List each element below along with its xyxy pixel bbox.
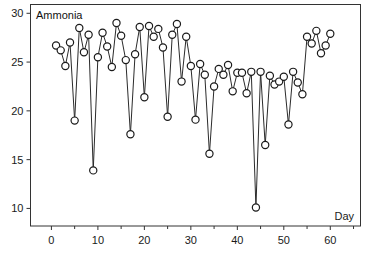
data-point-marker (206, 150, 213, 157)
data-point-marker (90, 167, 97, 174)
data-point-marker (169, 31, 176, 38)
x-tick-label: 60 (324, 234, 336, 246)
y-tick-label: 30 (11, 7, 23, 19)
data-point-marker (192, 116, 199, 123)
data-point-marker (290, 68, 297, 75)
data-point-marker (197, 60, 204, 67)
data-point-marker (243, 90, 250, 97)
data-point-marker (201, 71, 208, 78)
data-point-marker (220, 71, 227, 78)
data-point-marker (313, 27, 320, 34)
data-point-marker (224, 61, 231, 68)
y-axis: 1015202530 (11, 7, 30, 214)
data-point-marker (238, 69, 245, 76)
data-point-marker (322, 42, 329, 49)
data-point-marker (159, 44, 166, 51)
data-point-marker (118, 32, 125, 39)
data-point-marker (183, 33, 190, 40)
data-point-marker (317, 50, 324, 57)
data-point-marker (266, 72, 273, 79)
data-point-marker (294, 79, 301, 86)
data-point-marker (145, 22, 152, 29)
data-point-marker (308, 40, 315, 47)
data-point-marker (285, 121, 292, 128)
data-point-marker (141, 94, 148, 101)
y-tick-label: 25 (11, 56, 23, 68)
data-point-marker (71, 117, 78, 124)
data-point-marker (80, 49, 87, 56)
x-axis: 0102030405060 (48, 226, 353, 246)
x-tick-label: 30 (185, 234, 197, 246)
data-point-marker (155, 25, 162, 32)
data-point-marker (303, 33, 310, 40)
data-point-marker (210, 83, 217, 90)
data-point-marker (127, 131, 134, 138)
data-point-marker (113, 19, 120, 26)
data-point-marker (104, 43, 111, 50)
x-tick-label: 50 (278, 234, 290, 246)
data-point-marker (122, 57, 129, 64)
ammonia-line-chart: 1015202530 0102030405060 Ammonia Day (0, 0, 370, 255)
data-point-marker (99, 29, 106, 36)
data-point-marker (108, 63, 115, 70)
data-point-marker (76, 24, 83, 31)
data-point-marker (57, 47, 64, 54)
data-point-marker (280, 73, 287, 80)
data-point-marker (164, 113, 171, 120)
data-point-marker (131, 51, 138, 58)
y-tick-label: 10 (11, 202, 23, 214)
x-tick-label: 10 (92, 234, 104, 246)
data-point-marker (327, 30, 334, 37)
data-point-marker (229, 88, 236, 95)
data-point-marker (150, 33, 157, 40)
x-tick-label: 40 (231, 234, 243, 246)
data-point-marker (262, 141, 269, 148)
data-point-marker (248, 68, 255, 75)
data-point-marker (136, 23, 143, 30)
y-tick-label: 15 (11, 154, 23, 166)
y-tick-label: 20 (11, 105, 23, 117)
data-point-marker (66, 39, 73, 46)
data-point-marker (85, 31, 92, 38)
data-point-marker (299, 91, 306, 98)
x-axis-label: Day (334, 210, 354, 222)
data-point-marker (94, 54, 101, 61)
data-point-marker (257, 68, 264, 75)
data-point-marker (178, 78, 185, 85)
panel-label: Ammonia (36, 9, 83, 21)
x-tick-label: 20 (138, 234, 150, 246)
data-point-marker (62, 62, 69, 69)
data-point-marker (173, 20, 180, 27)
data-point-marker (252, 204, 259, 211)
x-tick-label: 0 (48, 234, 54, 246)
data-point-marker (187, 62, 194, 69)
